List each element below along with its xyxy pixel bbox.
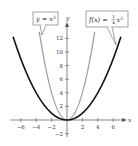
y-axis-label: y: [65, 14, 70, 22]
svg-text:f(x) =: f(x) =: [88, 16, 108, 24]
y-axis-arrow-icon: [65, 22, 69, 27]
callout-left-exponent: 2: [53, 15, 56, 20]
x-tick-label: 2: [81, 124, 85, 130]
callout-right-exponent: 2: [120, 16, 123, 21]
x-tick-label: −6: [17, 124, 26, 130]
x-tick-label: 4: [96, 124, 100, 130]
x-axis-label: x: [128, 116, 132, 123]
parabola-comparison-chart: −6 −4 −2 2 4 6 12 10 8 6 4 2 −2 x y y = …: [0, 0, 138, 146]
y-tick-label: 4: [60, 90, 64, 96]
y-tick-labels: 12 10 8 6 4 2 −2: [55, 35, 64, 136]
x-axis-arrow-icon: [122, 118, 127, 122]
x-tick-labels: −6 −4 −2 2 4 6: [17, 124, 116, 130]
svg-text:y = x2: y = x2: [35, 15, 56, 24]
y-tick-label: 8: [60, 63, 64, 69]
callout-y-equals-x-squared: y = x2: [33, 12, 58, 35]
callout-left-text: y = x: [35, 15, 53, 23]
x-tick-label: −4: [32, 124, 41, 130]
y-tick-label: 10: [56, 49, 63, 55]
fraction-numerator: 1: [112, 14, 115, 19]
y-tick-label: 6: [60, 76, 64, 82]
x-tick-label: −2: [48, 124, 56, 130]
callout-f-quarter-x-squared: f(x) = 1 4 x2: [86, 11, 128, 45]
y-tick-label: 2: [60, 103, 64, 109]
x-tick-label: 6: [111, 124, 115, 130]
y-tick-label: 12: [56, 35, 63, 41]
fraction-denominator: 4: [112, 20, 115, 25]
y-tick-label: −2: [55, 131, 63, 137]
callout-right-prefix: f(x) =: [88, 16, 108, 24]
